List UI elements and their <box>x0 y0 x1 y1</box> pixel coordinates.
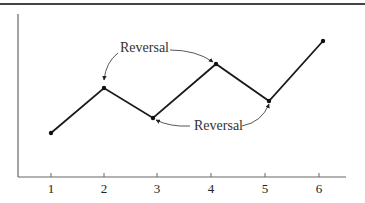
tick-label-4: 4 <box>208 181 215 196</box>
tick-label-2: 2 <box>101 181 108 196</box>
tick-label-6: 6 <box>316 181 323 196</box>
reversal-label-bottom: Reversal <box>194 118 243 133</box>
tick-label-1: 1 <box>48 181 55 196</box>
x-tick-labels: 1 2 3 4 5 6 <box>48 181 323 196</box>
data-point-1 <box>49 131 53 135</box>
data-point-5 <box>267 99 271 103</box>
reversal-arrow-bottom-right <box>242 104 269 126</box>
reversal-arrow-top-left <box>104 53 118 80</box>
data-point-4 <box>214 62 218 66</box>
tick-label-5: 5 <box>262 181 269 196</box>
price-line <box>51 41 323 133</box>
tick-label-3: 3 <box>154 181 161 196</box>
data-point-6 <box>321 39 325 43</box>
data-point-2 <box>102 86 106 90</box>
data-point-3 <box>151 116 155 120</box>
reversal-label-top: Reversal <box>120 40 169 55</box>
data-points <box>49 39 325 135</box>
reversal-chart: 1 2 3 4 5 6 Reversal Reversal <box>0 0 365 203</box>
reversal-arrow-top-right <box>170 50 213 62</box>
reversal-arrow-bottom-left <box>156 120 190 126</box>
